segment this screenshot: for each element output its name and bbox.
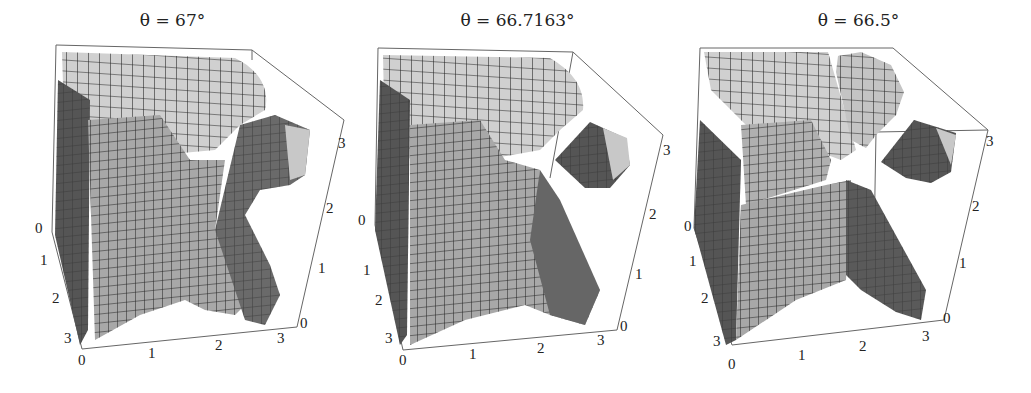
- panel-theta-67: θ = 67° 0 1 2 3 0 1 2 3 0 1 2 3: [0, 0, 345, 393]
- z-tick: 3: [663, 142, 671, 159]
- x-tick: 2: [537, 340, 545, 357]
- z-tick: 1: [318, 260, 326, 277]
- z-tick: 3: [986, 133, 994, 150]
- x-tick: 3: [277, 330, 285, 347]
- x-tick: 0: [399, 352, 407, 369]
- panel-theta-66-5: θ = 66.5° 0 1 2 3 0 1 2 3 0 1 2: [686, 0, 1031, 393]
- z-tick: 0: [943, 310, 951, 327]
- z-tick: 2: [972, 198, 980, 215]
- x-tick: 3: [922, 328, 930, 345]
- z-tick: 2: [326, 200, 334, 217]
- y-tick: 1: [40, 252, 48, 269]
- panel-theta-66-7163: θ = 66.7163° 0 1 2 3 0 1 2 3 0 1 2 3: [345, 0, 690, 393]
- z-tick: 1: [959, 255, 967, 272]
- surface-plot: [686, 0, 1031, 393]
- z-tick: 0: [620, 318, 628, 335]
- y-tick: 2: [375, 292, 383, 309]
- y-tick: 1: [689, 253, 697, 270]
- x-tick: 3: [597, 332, 605, 349]
- y-tick: 0: [35, 220, 43, 237]
- y-tick: 1: [363, 262, 371, 279]
- x-tick: 2: [215, 337, 223, 354]
- x-tick: 0: [78, 352, 86, 369]
- y-tick: 0: [684, 218, 692, 235]
- y-tick: 2: [701, 290, 709, 307]
- y-tick: 3: [385, 330, 393, 347]
- z-tick: 0: [300, 315, 308, 332]
- y-tick: 2: [52, 290, 60, 307]
- x-tick: 1: [798, 347, 806, 364]
- z-tick: 1: [635, 266, 643, 283]
- x-tick: 1: [148, 345, 156, 362]
- x-tick: 1: [469, 346, 477, 363]
- surface-plot: [345, 0, 690, 393]
- surface-plot: [0, 0, 345, 393]
- x-tick: 2: [859, 338, 867, 355]
- x-tick: 0: [728, 356, 736, 373]
- y-tick: 3: [64, 330, 72, 347]
- y-tick: 3: [713, 333, 721, 350]
- y-tick: 0: [358, 212, 366, 229]
- z-tick: 2: [649, 206, 657, 223]
